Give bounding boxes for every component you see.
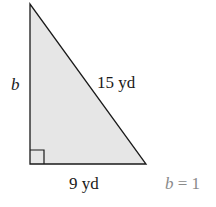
answer-variable: b — [165, 174, 174, 193]
hypotenuse-label: 15 yd — [97, 74, 135, 91]
answer-value: = 1 — [178, 174, 200, 193]
vertical-leg-label: b — [11, 76, 20, 93]
answer-text: b = 1 — [165, 175, 200, 192]
horizontal-leg-label: 9 yd — [69, 175, 99, 192]
